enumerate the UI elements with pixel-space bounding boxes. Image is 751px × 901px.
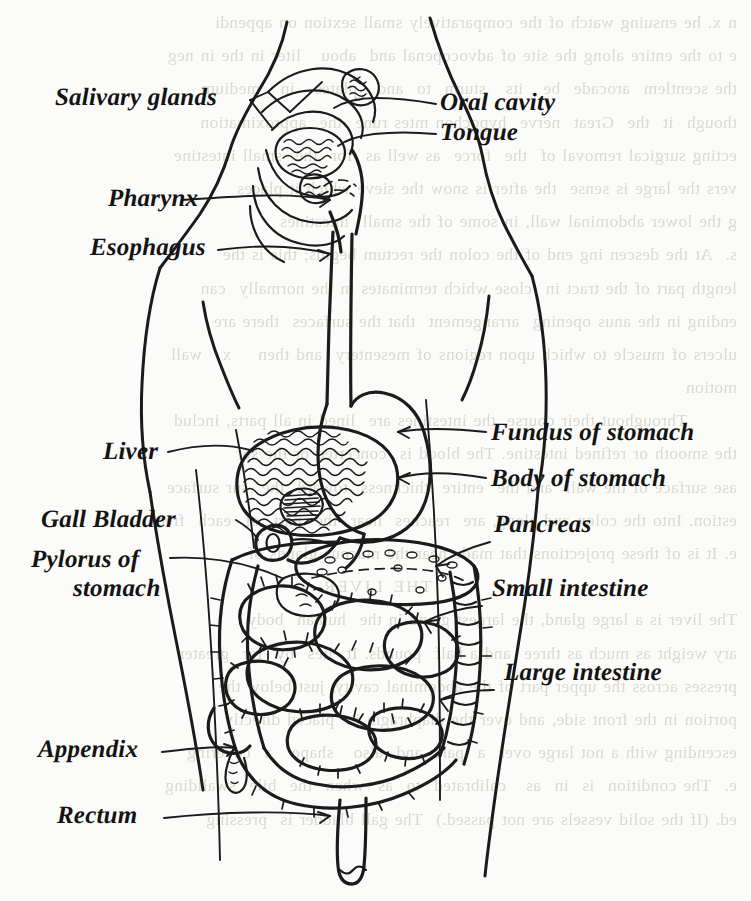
large-intestine (208, 542, 492, 817)
submandibular-gland-stipple (282, 140, 333, 175)
label-appendix: Appendix (38, 735, 138, 765)
pancreas (277, 540, 478, 616)
small-intestine (226, 575, 465, 778)
label-pylorus-line2: stomach (31, 574, 246, 603)
label-liver: Liver (103, 437, 158, 467)
label-large-intestine: Large intestine (504, 658, 662, 688)
label-pylorus-of-stomach: Pylorus of stomach (31, 545, 246, 603)
head-oral-region (250, 69, 379, 262)
parotid-gland-stipple (348, 77, 366, 100)
label-pylorus-line1: Pylorus of (31, 546, 139, 573)
liver-texture (244, 431, 367, 533)
label-pharynx: Pharynx (108, 184, 198, 214)
rectum (337, 798, 366, 884)
label-salivary-glands: Salivary glands (55, 83, 217, 113)
esophagus-tube (327, 232, 352, 406)
label-gall-bladder: Gall Bladder (41, 505, 176, 535)
label-esophagus: Esophagus (90, 233, 206, 263)
label-small-intestine: Small intestine (492, 574, 649, 604)
scanned-page: n x. he ensuing watch of the comparative… (0, 0, 751, 901)
liver-notch-hatch (284, 494, 320, 520)
label-oral-cavity: Oral cavity (440, 88, 555, 118)
label-fundus-of-stomach: Fundus of stomach (491, 418, 694, 448)
label-rectum: Rectum (57, 801, 137, 831)
label-tongue: Tongue (440, 118, 518, 148)
label-pancreas: Pancreas (494, 510, 591, 540)
label-body-of-stomach: Body of stomach (491, 464, 666, 494)
